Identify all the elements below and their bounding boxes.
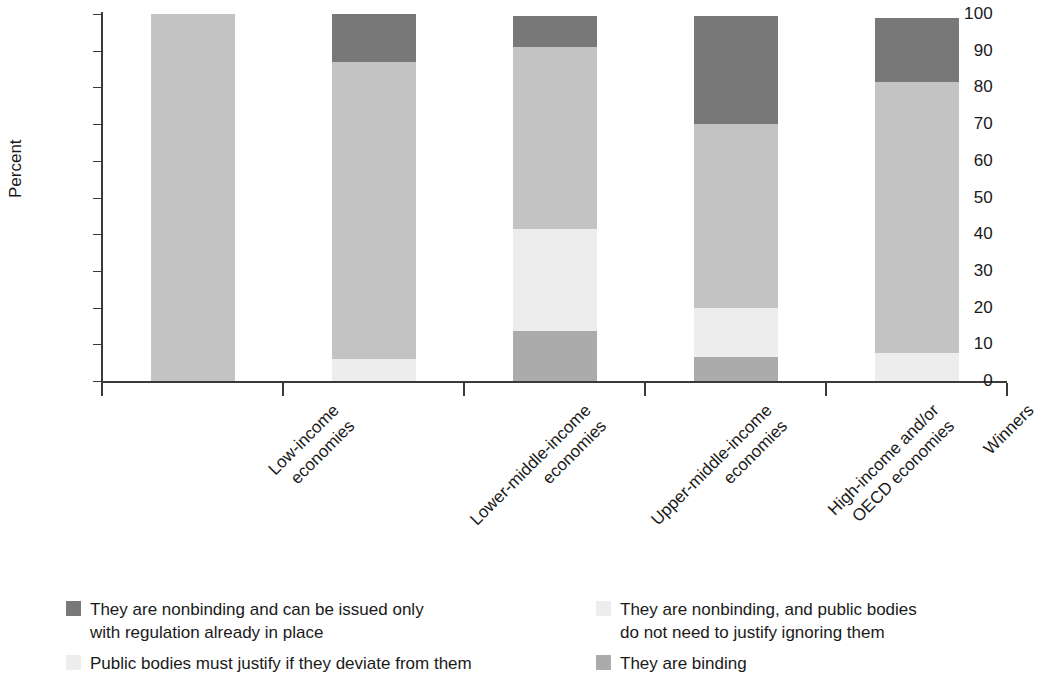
bar-stack xyxy=(513,14,597,381)
bar-segment xyxy=(694,357,778,381)
y-axis-tick xyxy=(93,51,102,52)
bar-segment xyxy=(694,124,778,308)
bar-stack xyxy=(332,14,416,381)
legend-swatch-icon xyxy=(596,655,611,670)
bar-segment xyxy=(513,331,597,381)
y-axis-tick-label: 40 xyxy=(974,224,993,244)
bar-segment xyxy=(513,47,597,229)
y-axis-tick-label: 0 xyxy=(983,371,993,391)
y-axis-tick-label: 20 xyxy=(974,298,993,318)
bar-stack xyxy=(151,14,235,381)
y-axis-tick-label: 60 xyxy=(974,151,993,171)
bar-segment xyxy=(332,14,416,62)
bar-segment xyxy=(875,18,959,82)
x-axis-tick xyxy=(825,383,827,396)
y-axis-tick-label: 70 xyxy=(974,114,993,134)
legend-label: They are binding xyxy=(620,652,747,675)
y-axis-tick xyxy=(93,198,102,199)
y-axis-tick-label: 50 xyxy=(974,188,993,208)
x-axis-category-label: Low-income economies xyxy=(263,400,360,497)
plot-area: 0102030405060708090100 xyxy=(102,14,1007,381)
bar-segment xyxy=(513,229,597,332)
bar-segment xyxy=(151,14,235,381)
bar-segment xyxy=(332,62,416,359)
legend-label: They are nonbinding, and public bodies d… xyxy=(620,598,917,645)
bar-stack xyxy=(875,14,959,381)
x-axis-category-label: Lower-middle-income economies xyxy=(465,400,612,547)
legend-item: They are nonbinding, and public bodies d… xyxy=(596,598,1016,645)
x-axis-tick xyxy=(282,383,284,396)
legend-swatch-icon xyxy=(66,601,81,616)
x-axis-tick xyxy=(644,383,646,396)
bar-segment xyxy=(332,359,416,381)
legend-label: They are nonbinding and can be issued on… xyxy=(90,598,424,645)
legend-item: Public bodies must justify if they devia… xyxy=(66,652,586,675)
bar-segment xyxy=(875,353,959,381)
legend-label: Public bodies must justify if they devia… xyxy=(90,652,472,675)
y-axis-tick xyxy=(93,344,102,345)
x-axis-category-label: High-income and/or OECD economies xyxy=(823,400,960,537)
legend-swatch-icon xyxy=(66,655,81,670)
bar-segment xyxy=(694,308,778,358)
x-axis-tick xyxy=(463,383,465,396)
y-axis-tick xyxy=(93,161,102,162)
y-axis-tick-label: 100 xyxy=(964,4,993,24)
y-axis-title: Percent xyxy=(6,139,26,198)
bar-segment xyxy=(875,82,959,354)
x-axis-category-label: Winners xyxy=(979,400,1038,460)
y-axis-tick-label: 90 xyxy=(974,41,993,61)
x-axis-line xyxy=(101,381,1007,383)
bar-segment xyxy=(694,16,778,124)
y-axis-tick xyxy=(93,124,102,125)
legend-swatch-icon xyxy=(596,601,611,616)
y-axis-tick xyxy=(93,14,102,15)
legend-item: They are nonbinding and can be issued on… xyxy=(66,598,536,645)
y-axis-tick-label: 30 xyxy=(974,261,993,281)
chart-legend: They are nonbinding and can be issued on… xyxy=(66,598,1006,680)
x-axis-category-label: Upper-middle-income economies xyxy=(646,400,793,547)
y-axis-tick xyxy=(93,234,102,235)
y-axis-tick-label: 10 xyxy=(974,334,993,354)
y-axis-tick-label: 80 xyxy=(974,77,993,97)
y-axis-tick xyxy=(93,271,102,272)
x-axis-tick xyxy=(1006,383,1008,396)
legend-item: They are binding xyxy=(596,652,1016,675)
x-axis-tick xyxy=(101,383,103,396)
y-axis-tick xyxy=(93,381,102,382)
y-axis-tick xyxy=(93,87,102,88)
bar-stack xyxy=(694,14,778,381)
bar-segment xyxy=(513,16,597,47)
y-axis-tick xyxy=(93,308,102,309)
